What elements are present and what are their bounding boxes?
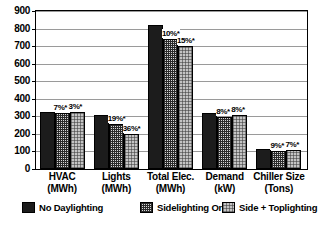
bar-group: 10%*15%*	[148, 11, 193, 169]
bar	[217, 117, 232, 169]
category-name: Chiller Size	[253, 171, 305, 182]
bar	[286, 150, 301, 169]
bar	[109, 124, 124, 169]
bar-value-annotation: 7%*	[285, 140, 298, 149]
bar-group: 19%*36%*	[94, 11, 139, 169]
y-axis-tick-label: 600	[14, 57, 30, 68]
bar-value-annotation: 15%*	[177, 36, 195, 45]
bars-layer: 7%*3%*19%*36%*10%*15%*8%*8%*9%*7%*	[36, 11, 307, 169]
x-axis-category-label: HVAC(MWh)	[35, 171, 89, 195]
y-axis-tick-label: 300	[14, 110, 30, 121]
y-axis-tick-label: 200	[14, 127, 30, 138]
y-axis-tick-label: 700	[14, 40, 30, 51]
gridline	[36, 169, 307, 170]
bar-value-annotation: 8%*	[231, 105, 244, 114]
legend-item[interactable]: Side + Toplighting	[222, 202, 317, 213]
bar-value-annotation: 19%*	[108, 114, 126, 123]
bar	[202, 113, 217, 169]
category-unit: (kW)	[198, 183, 252, 195]
bar-group: 7%*3%*	[40, 11, 85, 169]
bar	[70, 112, 85, 169]
category-name: HVAC	[49, 171, 76, 182]
x-axis-category-label: Lights(MWh)	[89, 171, 143, 195]
bar	[256, 149, 271, 169]
category-unit: (MWh)	[35, 183, 89, 195]
bar-value-annotation: 9%*	[270, 141, 283, 150]
bar	[148, 25, 163, 169]
legend-label: Side + Toplighting	[239, 202, 317, 213]
legend-swatch-icon	[222, 202, 235, 213]
bar-value-annotation: 3%*	[69, 102, 82, 111]
bar	[94, 115, 109, 169]
legend-swatch-icon	[22, 202, 35, 213]
bar-value-annotation: 36%*	[123, 124, 141, 133]
bar-group: 9%*7%*	[256, 11, 301, 169]
y-axis-tick-labels: 9008007006005004003002001000	[0, 8, 32, 172]
legend-item[interactable]: No Daylighting	[22, 202, 103, 213]
bar	[55, 113, 70, 169]
bar	[124, 134, 139, 169]
category-name: Lights	[102, 171, 131, 182]
y-axis-tick-label: 400	[14, 92, 30, 103]
x-axis-category-label: Chiller Size(Tons)	[252, 171, 306, 195]
category-unit: (MWh)	[143, 183, 197, 195]
y-axis-tick-mark	[32, 169, 36, 170]
bar-value-annotation: 8%*	[216, 107, 229, 116]
plot-area: 7%*3%*19%*36%*10%*15%*8%*8%*9%*7%*	[35, 10, 308, 170]
bar	[232, 115, 247, 169]
bar-group: 8%*8%*	[202, 11, 247, 169]
category-unit: (Tons)	[252, 183, 306, 195]
x-axis-category-label: Total Elec.(MWh)	[143, 171, 197, 195]
bar	[163, 39, 178, 169]
bar-chart: 9008007006005004003002001000 7%*3%*19%*3…	[0, 0, 318, 227]
y-axis-tick-label: 100	[14, 145, 30, 156]
category-name: Total Elec.	[147, 171, 194, 182]
y-axis-tick-label: 800	[14, 22, 30, 33]
legend-label: Sidelighting Only	[157, 202, 232, 213]
legend-label: No Daylighting	[39, 202, 103, 213]
legend-item[interactable]: Sidelighting Only	[140, 202, 232, 213]
y-axis-tick-label: 500	[14, 75, 30, 86]
bar	[40, 112, 55, 169]
bar	[271, 151, 286, 169]
bar	[178, 46, 193, 169]
bar-value-annotation: 7%*	[54, 103, 67, 112]
category-unit: (MWh)	[89, 183, 143, 195]
x-axis-category-label: Demand(kW)	[198, 171, 252, 195]
chart-legend: No DaylightingSidelighting OnlySide + To…	[0, 199, 318, 221]
legend-swatch-icon	[140, 202, 153, 213]
y-axis-tick-label: 900	[14, 5, 30, 16]
category-name: Demand	[206, 171, 244, 182]
y-axis-tick-label: 0	[25, 163, 30, 174]
plot-area-wrapper: 9008007006005004003002001000 7%*3%*19%*3…	[0, 0, 318, 180]
